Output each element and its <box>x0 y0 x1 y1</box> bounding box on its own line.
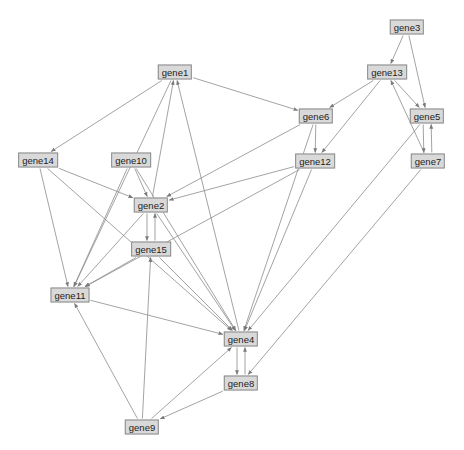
edge-gene7-to-gene5 <box>431 124 432 152</box>
node-gene5[interactable]: gene5 <box>410 109 444 124</box>
edge-gene13-to-gene6 <box>330 81 374 108</box>
edge-gene12-to-gene11 <box>86 170 300 287</box>
edge-gene9-to-gene15 <box>142 258 150 419</box>
node-gene3[interactable]: gene3 <box>390 20 424 35</box>
edge-gene4-to-gene1 <box>177 81 239 331</box>
edge-gene9-to-gene11 <box>75 304 138 419</box>
edge-gene14-to-gene11 <box>40 169 68 287</box>
node-gene12[interactable]: gene12 <box>295 154 335 169</box>
edge-gene5-to-gene7 <box>423 125 424 153</box>
node-gene13[interactable]: gene13 <box>367 65 407 80</box>
edge-gene13-to-gene5 <box>395 81 420 108</box>
edge-gene14-to-gene2 <box>59 168 133 197</box>
edge-gene3-to-gene13 <box>391 36 403 64</box>
edge-gene6-to-gene12 <box>315 125 316 153</box>
node-gene10[interactable]: gene10 <box>111 153 151 168</box>
edge-gene6-to-gene2 <box>167 125 300 197</box>
node-gene9[interactable]: gene9 <box>125 420 159 435</box>
edge-gene10-to-gene11 <box>74 169 127 287</box>
edge-gene15-to-gene4 <box>160 258 233 331</box>
node-gene2[interactable]: gene2 <box>134 198 168 213</box>
node-gene11[interactable]: gene11 <box>51 288 90 303</box>
edge-gene8-to-gene9 <box>160 391 223 419</box>
node-gene6[interactable]: gene6 <box>299 109 333 124</box>
node-gene8[interactable]: gene8 <box>224 376 258 391</box>
node-gene14[interactable]: gene14 <box>18 153 58 168</box>
edge-gene15-to-gene11 <box>85 258 136 287</box>
edge-gene3-to-gene5 <box>409 36 425 108</box>
node-gene1[interactable]: gene1 <box>158 65 192 80</box>
node-gene15[interactable]: gene15 <box>131 242 171 257</box>
edge-gene9-to-gene4 <box>152 348 232 419</box>
edge-gene12-to-gene2 <box>169 167 294 201</box>
edge-gene1-to-gene14 <box>51 81 162 152</box>
node-gene4[interactable]: gene4 <box>224 332 258 347</box>
gene-network-graph: gene1gene3gene13gene6gene5gene12gene7gen… <box>0 0 464 450</box>
edge-gene1-to-gene6 <box>193 78 298 111</box>
edge-gene2-to-gene4 <box>157 214 236 331</box>
node-gene7[interactable]: gene7 <box>411 154 445 169</box>
edge-gene10-to-gene2 <box>135 169 147 197</box>
edge-gene7-to-gene8 <box>248 170 421 375</box>
